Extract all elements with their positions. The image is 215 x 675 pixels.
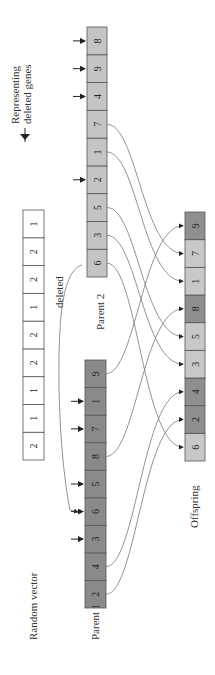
offspring-label: Offspring bbox=[188, 485, 200, 528]
random-vector-gene-value: 1 bbox=[28, 416, 39, 421]
random-vector-gene-value: 2 bbox=[28, 444, 39, 449]
parent2-gene-value: 8 bbox=[92, 38, 103, 43]
deleted-link-arrow bbox=[59, 265, 82, 512]
gene-link-arrow bbox=[106, 309, 183, 457]
offspring-gene-value: 6 bbox=[190, 445, 201, 450]
parent1-gene-value: 9 bbox=[90, 371, 101, 376]
offspring-gene-value: 7 bbox=[190, 251, 201, 256]
random-vector-gene-value: 2 bbox=[28, 333, 39, 338]
deleted-label: deleted bbox=[53, 276, 65, 308]
random-vector-gene-value: 1 bbox=[28, 305, 39, 310]
parent2-gene-value: 6 bbox=[92, 261, 103, 266]
parent2-gene-value: 2 bbox=[92, 177, 103, 182]
offspring-gene-value: 3 bbox=[190, 362, 201, 367]
parent1-gene-value: 1 bbox=[90, 399, 101, 404]
parent2-gene-value: 7 bbox=[92, 122, 103, 127]
parent1-chromosome: 243658719 bbox=[71, 360, 106, 608]
offspring-gene-value: 4 bbox=[190, 389, 201, 394]
parent2-chromosome: 635217498 bbox=[73, 27, 107, 277]
random-vector-gene-value: 2 bbox=[28, 249, 39, 254]
parent2-gene-value: 1 bbox=[92, 150, 103, 155]
parent1-gene-value: 4 bbox=[90, 564, 101, 569]
gene-link-arrow bbox=[107, 235, 183, 364]
gene-link-arrow bbox=[106, 226, 183, 374]
gene-links bbox=[106, 124, 183, 594]
parent2-gene-value: 4 bbox=[92, 94, 103, 99]
legend-line2: deleted genes bbox=[21, 64, 33, 124]
random-vector: 211221221 bbox=[23, 210, 44, 460]
parent1-gene-value: 7 bbox=[90, 426, 101, 431]
parent1-gene-value: 3 bbox=[90, 537, 101, 542]
random-vector-gene-value: 2 bbox=[28, 277, 39, 282]
gene-link-arrow bbox=[107, 124, 183, 253]
random-vector-gene-value: 1 bbox=[28, 388, 39, 393]
gene-link-arrow bbox=[107, 263, 183, 447]
parent2-gene-value: 9 bbox=[92, 66, 103, 71]
offspring-gene-value: 1 bbox=[190, 279, 201, 284]
arrow-right-icon bbox=[20, 134, 30, 140]
offspring-gene-value: 8 bbox=[190, 306, 201, 311]
legend: Representing deleted genes bbox=[9, 64, 33, 142]
random-vector-label: Random vector bbox=[27, 572, 39, 640]
random-vector-gene-value: 1 bbox=[28, 221, 39, 226]
parent2-gene-value: 5 bbox=[92, 205, 103, 210]
offspring-chromosome: 624358179 bbox=[185, 212, 205, 461]
parent1-label: Parent 1 bbox=[89, 604, 101, 640]
gene-link-arrow bbox=[107, 152, 183, 281]
parent2-label: Parent 2 bbox=[94, 294, 106, 330]
offspring-gene-value: 5 bbox=[190, 334, 201, 339]
gene-link-arrow bbox=[106, 420, 183, 595]
parent1-gene-value: 5 bbox=[90, 482, 101, 487]
crossover-diagram: Representing deleted genes 635217498 Par… bbox=[0, 0, 215, 675]
random-vector-gene-value: 2 bbox=[28, 360, 39, 365]
gene-link-arrow bbox=[106, 392, 183, 567]
parent1-gene-value: 6 bbox=[90, 509, 101, 514]
parent1-gene-value: 2 bbox=[90, 592, 101, 597]
parent2-gene-value: 3 bbox=[92, 233, 103, 238]
offspring-gene-value: 9 bbox=[190, 223, 201, 228]
legend-line1: Representing bbox=[9, 65, 21, 124]
offspring-gene-value: 2 bbox=[190, 417, 201, 422]
parent1-gene-value: 8 bbox=[90, 454, 101, 459]
